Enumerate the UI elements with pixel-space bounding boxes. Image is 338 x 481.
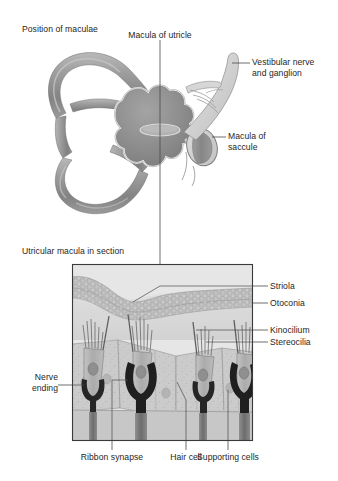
labyrinth-illustration [48, 40, 250, 264]
label-macula-of-saccule-line1: Macula of [228, 131, 266, 142]
heading-position-of-maculae: Position of maculae [22, 24, 98, 35]
label-kinocilium: Kinocilium [270, 325, 310, 336]
anatomy-figure: Position of maculae Macula of utricle Ve… [0, 0, 338, 481]
vestibular-nerve-branches [186, 81, 221, 93]
nerve-fiber-3 [199, 413, 207, 441]
label-vestibular-nerve-line1: Vestibular nerve [252, 57, 314, 68]
label-nerve-ending-line1: Nerve [4, 372, 58, 383]
label-macula-of-saccule-line2: saccule [228, 142, 258, 153]
endolymphatic-duct [182, 152, 187, 180]
superior-canal-descending-limb [55, 116, 72, 158]
nerve-fiber-1 [89, 412, 97, 441]
label-vestibular-nerve-line2: and ganglion [252, 68, 302, 79]
vestibular-nerve-trunk [184, 53, 239, 140]
label-macula-of-utricle: Macula of utricle [110, 30, 210, 41]
label-ribbon-synapse: Ribbon synapse [66, 452, 158, 463]
posterior-semicircular-canal [55, 158, 148, 214]
heading-utricular-macula-in-section: Utricular macula in section [22, 246, 124, 257]
label-nerve-ending-line2: ending [4, 383, 58, 394]
label-otoconia: Otoconia [270, 298, 305, 309]
label-supporting-cells: Supporting cells [186, 452, 270, 463]
nerve-fiber-2 [135, 413, 147, 441]
label-striola: Striola [270, 281, 295, 292]
nerve-fiber-4 [239, 413, 250, 441]
macula-section-illustration [58, 264, 268, 450]
label-stereocilia: Stereocilia [270, 337, 311, 348]
